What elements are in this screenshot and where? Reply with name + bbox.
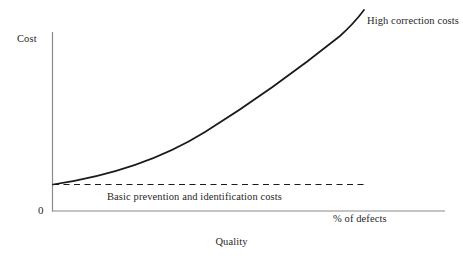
cost-quality-chart: Cost 0 % of defects Quality High correct… [0, 0, 463, 260]
y-axis-title: Cost [17, 33, 37, 45]
x-axis-title: Quality [0, 236, 463, 248]
x-axis-end-label: % of defects [333, 213, 387, 225]
baseline-annotation-prevention-costs: Basic prevention and identification cost… [107, 191, 282, 203]
curve-annotation-high-correction-costs: High correction costs [367, 15, 463, 28]
cost-curve [53, 10, 364, 185]
plot-area [0, 0, 463, 260]
origin-label: 0 [38, 204, 44, 216]
